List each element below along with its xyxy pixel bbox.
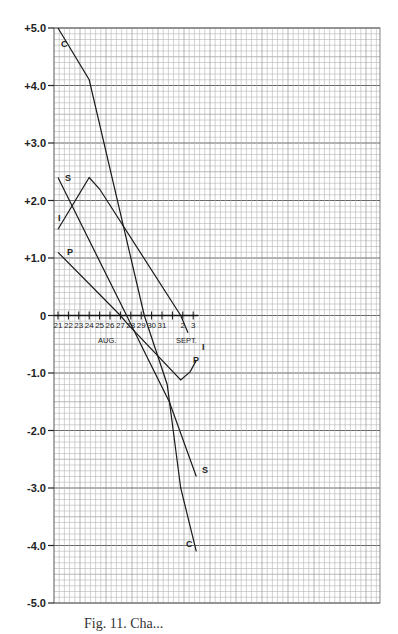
x-tick-label: 3 <box>191 321 196 330</box>
label-p-top: P <box>67 247 73 257</box>
label-s-top: S <box>65 173 71 183</box>
label-s-bottom: S <box>202 465 208 475</box>
x-tick-label: 31 <box>158 321 167 330</box>
x-tick-label: 29 <box>137 321 146 330</box>
label-p-bottom: P <box>193 355 199 365</box>
chart-canvas: +5.0+4.0+3.0+2.0+1.00-1.0-2.0-3.0-4.0-5.… <box>0 0 398 634</box>
label-c-bottom: C <box>186 539 193 549</box>
y-tick-label: -2.0 <box>27 425 46 437</box>
y-tick-label: +4.0 <box>24 80 46 92</box>
label-i-right: I <box>202 342 205 352</box>
series-labels: C C S S I I P P AUG. SEPT. <box>58 39 208 549</box>
y-tick-label: +3.0 <box>24 137 46 149</box>
figure-caption: Fig. 11. Cha... <box>84 616 163 632</box>
x-tick-label: 25 <box>95 321 104 330</box>
label-i-left: I <box>58 213 61 223</box>
y-tick-label: -1.0 <box>27 367 46 379</box>
x-tick-label: 21 <box>54 321 63 330</box>
y-tick-label: +2.0 <box>24 195 46 207</box>
y-tick-label: -3.0 <box>27 482 46 494</box>
x-tick-label: 27 <box>116 321 125 330</box>
label-c-top: C <box>61 39 68 49</box>
x-tick-label: 24 <box>85 321 94 330</box>
y-tick-label: +1.0 <box>24 252 46 264</box>
x-tick-label: 26 <box>106 321 115 330</box>
y-tick-label: +5.0 <box>24 22 46 34</box>
data-series <box>58 28 196 551</box>
y-tick-label: -5.0 <box>27 597 46 609</box>
x-tick-label: 23 <box>74 321 83 330</box>
series-line-c <box>58 28 196 551</box>
y-tick-label: -4.0 <box>27 540 46 552</box>
month-label-aug: AUG. <box>98 336 116 345</box>
x-tick-label: 22 <box>64 321 73 330</box>
y-tick-label: 0 <box>40 310 46 322</box>
month-label-sept: SEPT. <box>176 336 197 345</box>
